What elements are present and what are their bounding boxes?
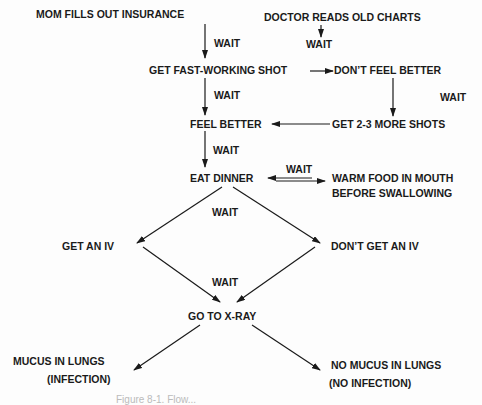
edge-label-wait: WAIT (286, 163, 312, 176)
node-no-mucus: NO MUCUS IN LUNGS (331, 359, 441, 372)
edge-label-wait: WAIT (440, 91, 466, 104)
node-dont-feel-better: DON’T FEEL BETTER (334, 64, 441, 77)
node-mom-insurance: MOM FILLS OUT INSURANCE (36, 8, 184, 21)
node-get-iv: GET AN IV (62, 240, 114, 253)
node-warm-food-line2: BEFORE SWALLOWING (332, 187, 452, 200)
node-no-mucus-line2: (NO INFECTION) (329, 377, 411, 390)
node-xray: GO TO X-RAY (188, 310, 256, 323)
figure-caption: Figure 8-1. Flow... (116, 394, 196, 405)
node-more-shots: GET 2-3 MORE SHOTS (332, 118, 445, 131)
node-dont-get-iv: DON’T GET AN IV (331, 240, 419, 253)
edge-label-wait: WAIT (212, 276, 238, 289)
edge-label-wait: WAIT (306, 38, 332, 51)
edge-label-wait: WAIT (214, 89, 240, 102)
node-eat-dinner: EAT DINNER (190, 172, 253, 185)
node-feel-better: FEEL BETTER (190, 118, 262, 131)
node-doctor-charts: DOCTOR READS OLD CHARTS (264, 11, 421, 24)
node-warm-food: WARM FOOD IN MOUTH (332, 172, 453, 185)
edge-label-wait: WAIT (214, 37, 240, 50)
node-fast-shot: GET FAST-WORKING SHOT (149, 64, 287, 77)
node-mucus: MUCUS IN LUNGS (13, 355, 105, 368)
node-mucus-line2: (INFECTION) (47, 373, 111, 386)
edge-label-wait: WAIT (213, 144, 239, 157)
edge-label-wait: WAIT (212, 206, 238, 219)
